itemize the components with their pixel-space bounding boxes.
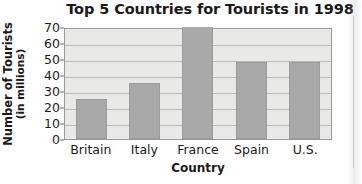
x-axis-tick-labels: BritainItalyFranceSpainU.S. <box>64 142 332 158</box>
y-axis-tick-labels: 010203040506070 <box>30 28 60 140</box>
y-axis-title-line2: (in millions) <box>15 22 27 146</box>
page-scan-edge-line <box>353 16 354 168</box>
bar <box>236 62 267 139</box>
y-axis-title-line1: Number of Tourists <box>2 22 15 146</box>
y-axis-tick-label: 10 <box>34 118 60 131</box>
bar <box>289 62 320 139</box>
y-axis-tick-label: 0 <box>34 134 60 147</box>
x-axis-tick-label: Britain <box>64 142 118 157</box>
x-axis-tick-label: Italy <box>118 142 172 157</box>
bar-series <box>65 29 331 139</box>
y-axis-tick-label: 70 <box>34 22 60 35</box>
x-axis-tick-label: U.S. <box>278 142 332 157</box>
plot-area <box>64 28 332 140</box>
y-axis-tick-label: 50 <box>34 54 60 67</box>
y-axis-tick-label: 20 <box>34 102 60 115</box>
x-axis-title: Country <box>64 161 332 175</box>
bar <box>129 83 160 139</box>
y-axis-tick-label: 60 <box>34 38 60 51</box>
y-axis-tick-label: 40 <box>34 70 60 83</box>
page-scan-edge-shadow <box>348 0 362 184</box>
x-axis-tick-label: France <box>171 142 225 157</box>
bar <box>76 99 107 139</box>
y-axis-tick-label: 30 <box>34 86 60 99</box>
x-axis-tick-label: Spain <box>225 142 279 157</box>
bar-chart-figure: Top 5 Countries for Tourists in 1998 Num… <box>0 0 362 184</box>
chart-title: Top 5 Countries for Tourists in 1998 <box>64 1 356 17</box>
bar <box>182 27 213 139</box>
